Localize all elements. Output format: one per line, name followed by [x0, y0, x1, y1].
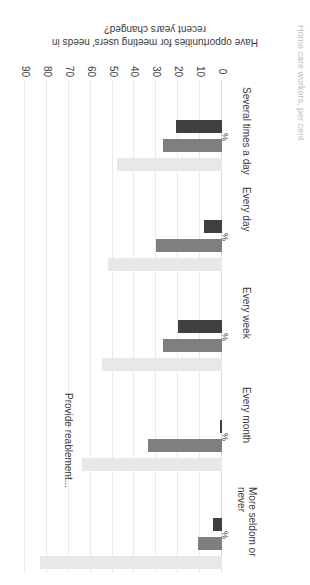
- category-axis-title: Provide reablement...: [63, 393, 74, 488]
- category-label-every-week: Every week: [241, 287, 252, 377]
- chart-canvas: 0 10 20 30 40 50 60 70 80 90 % % % % % S…: [0, 0, 310, 585]
- category-label-several-times-a-day: Several times a day: [241, 87, 252, 177]
- category-label-more-seldom-or-never: More seldom or never: [236, 487, 258, 577]
- category-label-every-day: Every day: [241, 187, 252, 277]
- series-axis-title: Home care workers, per cent: [296, 25, 306, 141]
- chart-figure: 0 10 20 30 40 50 60 70 80 90 % % % % % S…: [0, 0, 310, 585]
- category-axis-labels: Several times a day Every day Every week…: [0, 0, 310, 585]
- category-label-every-month: Every month: [241, 387, 252, 477]
- value-axis-title: Have opportunities for meeting users' ne…: [40, 23, 270, 49]
